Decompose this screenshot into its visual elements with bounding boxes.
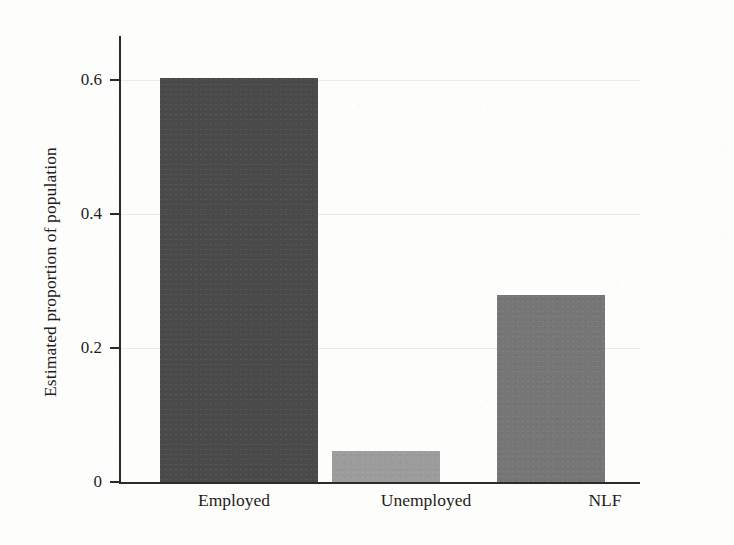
x-tick-label-unemployed: Unemployed <box>317 490 535 511</box>
bar-employed[interactable] <box>160 78 318 482</box>
y-tick-0: 0 <box>110 481 121 483</box>
bar-unemployed[interactable] <box>332 451 440 482</box>
x-axis-line <box>119 482 640 484</box>
y-axis-label: Estimated proportion of population <box>33 37 67 507</box>
figure-canvas: Estimated proportion of population 0 0.2… <box>0 0 734 545</box>
y-tick-3: 0.6 <box>110 79 121 81</box>
y-tick-2: 0.4 <box>110 213 121 215</box>
x-tick-label-employed: Employed <box>130 490 338 511</box>
plot-area: 0 0.2 0.4 0.6 Employed Unemployed NLF <box>119 36 640 484</box>
bar-nlf[interactable] <box>497 295 605 482</box>
x-tick-label-nlf: NLF <box>507 490 703 511</box>
y-axis-line <box>119 36 121 484</box>
y-tick-label-0: 0 <box>94 472 103 492</box>
y-tick-label-2: 0.4 <box>81 204 102 224</box>
y-tick-label-1: 0.2 <box>81 338 102 358</box>
y-tick-1: 0.2 <box>110 347 121 349</box>
y-tick-label-3: 0.6 <box>81 70 102 90</box>
